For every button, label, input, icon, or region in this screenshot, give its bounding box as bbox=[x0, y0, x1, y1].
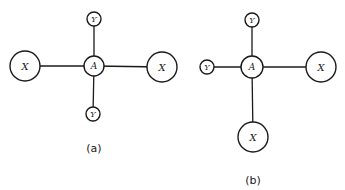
panel-b-edges bbox=[207, 20, 321, 137]
node-y-left: Y bbox=[200, 60, 214, 74]
node-label: X bbox=[248, 132, 257, 143]
node-x-right: X bbox=[306, 52, 336, 82]
node-a: A bbox=[241, 56, 263, 78]
node-x-right: X bbox=[147, 52, 177, 82]
node-a: A bbox=[84, 56, 104, 76]
node-label: Y bbox=[91, 15, 97, 24]
node-y-top: Y bbox=[87, 12, 101, 26]
node-label: A bbox=[90, 61, 98, 71]
node-label: Y bbox=[90, 110, 96, 119]
node-y-top: Y bbox=[245, 13, 259, 27]
node-y-bottom: Y bbox=[86, 107, 100, 121]
panel-a: AXXYY (a) bbox=[10, 12, 177, 155]
node-label: X bbox=[20, 61, 29, 72]
node-label: X bbox=[316, 62, 325, 73]
node-x-left: X bbox=[10, 51, 40, 81]
panel-b-label: (b) bbox=[245, 174, 261, 187]
node-label: A bbox=[248, 62, 256, 72]
node-label: X bbox=[157, 62, 166, 73]
node-label: Y bbox=[204, 63, 210, 72]
node-x-bottom: X bbox=[238, 122, 268, 152]
node-label: Y bbox=[249, 16, 255, 25]
panel-b: AYYXX (b) bbox=[200, 13, 336, 187]
molecular-geometry-diagram: AXXYY (a) AYYXX (b) bbox=[0, 0, 345, 190]
panel-a-label: (a) bbox=[86, 142, 101, 155]
panel-b-nodes: AYYXX bbox=[200, 13, 336, 152]
